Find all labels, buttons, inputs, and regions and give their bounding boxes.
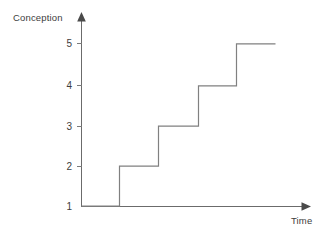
y-axis-group [77,12,86,207]
y-tick-label-3: 3 [66,121,72,132]
y-tick-label-5: 5 [66,38,72,49]
y-axis-tick-labels: 5 4 3 2 1 [66,38,72,212]
chart-screenshot: 5 4 3 2 1 Conception Time [0,0,330,232]
step-chart: 5 4 3 2 1 Conception Time [0,0,330,232]
y-tick-label-4: 4 [66,80,72,91]
y-tick-label-1: 1 [66,201,72,212]
x-axis-title: Time [291,215,312,226]
x-axis-arrow-icon [302,202,312,211]
y-tick-label-2: 2 [66,161,72,172]
y-axis-tick-marks [77,44,82,167]
step-line-conception [82,44,276,206]
data-series-group [82,44,276,206]
y-axis-title: Conception [13,12,63,23]
y-axis-arrow-icon [77,12,86,22]
